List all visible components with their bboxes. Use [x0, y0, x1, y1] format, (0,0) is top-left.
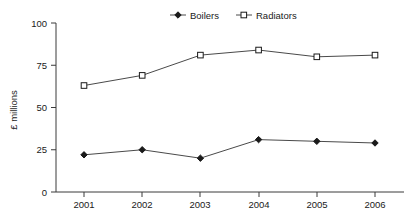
chart-canvas: Boilers Radiators £ millions 100 75 50 2…: [0, 0, 417, 223]
y-axis: 100 75 50 25 0: [31, 18, 56, 198]
y-tick-label-100: 100: [31, 18, 47, 29]
x-tick-label-2004: 2004: [248, 199, 269, 210]
data-point-radiators-2003: [198, 52, 204, 58]
data-point-boilers-2005: [314, 138, 320, 144]
legend-item-radiators: Radiators: [236, 10, 297, 21]
data-point-boilers-2001: [81, 152, 87, 158]
data-point-radiators-2001: [81, 83, 87, 89]
x-axis: 2001 2002 2003 2004 2005 2006: [56, 192, 404, 210]
legend-label-boilers: Boilers: [190, 10, 219, 21]
data-point-radiators-2004: [256, 47, 262, 53]
data-point-boilers-2002: [139, 147, 145, 153]
x-tick-label-2001: 2001: [73, 199, 94, 210]
data-point-radiators-2002: [139, 73, 145, 79]
data-point-boilers-2004: [255, 136, 261, 142]
x-tick-label-2005: 2005: [306, 199, 327, 210]
y-axis-title: £ millions: [8, 90, 19, 130]
x-tick-label-2003: 2003: [189, 199, 210, 210]
y-tick-label-0: 0: [42, 187, 47, 198]
x-tick-label-2002: 2002: [131, 199, 152, 210]
y-tick-label-25: 25: [36, 144, 47, 155]
data-point-radiators-2006: [372, 52, 378, 58]
series-radiators: [81, 47, 378, 88]
legend-marker-boilers: [175, 12, 181, 18]
series-line-radiators: [84, 50, 375, 85]
data-point-radiators-2005: [314, 54, 320, 60]
legend-label-radiators: Radiators: [256, 10, 297, 21]
series-boilers: [81, 136, 378, 161]
chart-legend: Boilers Radiators: [170, 10, 297, 21]
series-line-boilers: [84, 140, 375, 159]
y-tick-label-75: 75: [36, 60, 47, 71]
line-chart: Boilers Radiators £ millions 100 75 50 2…: [0, 0, 417, 223]
legend-item-boilers: Boilers: [170, 10, 219, 21]
legend-marker-radiators: [241, 12, 247, 18]
y-tick-label-50: 50: [36, 102, 47, 113]
data-point-boilers-2006: [372, 140, 378, 146]
x-tick-label-2006: 2006: [364, 199, 385, 210]
data-point-boilers-2003: [197, 155, 203, 161]
plot-area: [81, 47, 378, 161]
